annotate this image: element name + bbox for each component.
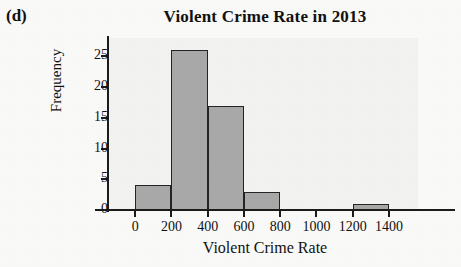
- x-axis-tick: [352, 210, 354, 217]
- y-axis-label: Frequency: [48, 21, 65, 141]
- x-axis-tick: [207, 210, 209, 217]
- x-axis-tick: [279, 210, 281, 217]
- histogram-bar: [171, 50, 207, 210]
- panel-label: (d): [6, 6, 27, 26]
- x-axis-label: Violent Crime Rate: [110, 239, 420, 257]
- histogram-bar: [208, 106, 244, 210]
- y-axis-tick-label: 25: [74, 48, 108, 62]
- x-axis-tick: [243, 210, 245, 217]
- x-axis-tick: [388, 210, 390, 217]
- chart-title: Violent Crime Rate in 2013: [100, 7, 430, 27]
- y-axis-tick-label: 0: [74, 202, 108, 216]
- x-axis-tick: [134, 210, 136, 217]
- x-axis-line: [95, 209, 455, 211]
- y-axis-tick-label: 5: [74, 171, 108, 185]
- histogram-bar: [244, 192, 280, 210]
- x-axis-tick-label: 1400: [367, 219, 411, 234]
- x-axis-tick: [315, 210, 317, 217]
- y-axis-tick-label: 20: [74, 79, 108, 93]
- histogram-bar: [135, 185, 171, 210]
- histogram-bars: [108, 38, 418, 210]
- y-axis-tick-label: 10: [74, 141, 108, 155]
- x-axis-tick: [170, 210, 172, 217]
- y-axis-tick-label: 15: [74, 110, 108, 124]
- histogram-figure: (d) Violent Crime Rate in 2013 051015202…: [0, 0, 461, 267]
